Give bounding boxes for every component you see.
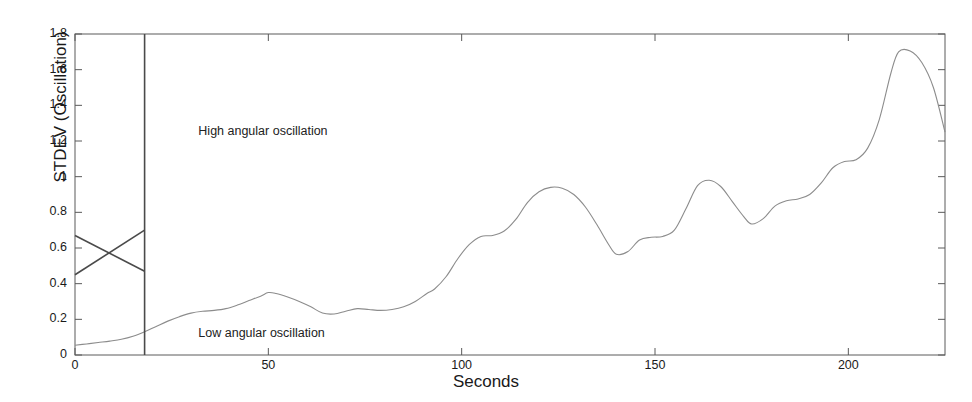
cross-line-ascending	[75, 230, 145, 275]
plot-svg	[0, 0, 972, 402]
y-tick-label: 1.4	[21, 97, 67, 111]
x-tick-label: 50	[243, 358, 293, 372]
x-tick-label: 200	[823, 358, 873, 372]
plot-annotation: High angular oscillation	[198, 124, 327, 138]
y-tick-label: 0.2	[21, 311, 67, 325]
x-axis-title: Seconds	[0, 372, 972, 392]
data-series-line	[75, 49, 945, 345]
y-tick-label: 1.8	[21, 26, 67, 40]
plot-annotation: Low angular oscillation	[198, 326, 324, 340]
y-tick-label: 0.6	[21, 240, 67, 254]
tick-marks	[75, 34, 945, 355]
x-tick-label: 100	[437, 358, 487, 372]
y-tick-label: 1.2	[21, 133, 67, 147]
plot-frame	[75, 34, 945, 355]
y-tick-label: 1.6	[21, 62, 67, 76]
x-tick-label: 150	[630, 358, 680, 372]
y-tick-label: 0.8	[21, 204, 67, 218]
y-tick-label: 0.4	[21, 276, 67, 290]
y-tick-label: 1	[21, 169, 67, 183]
x-tick-label: 0	[50, 358, 100, 372]
figure-container: STDEV (Oscillation) Seconds 00.20.40.60.…	[0, 0, 972, 402]
